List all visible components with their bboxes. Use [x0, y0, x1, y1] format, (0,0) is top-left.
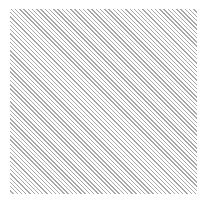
diagonal-hatch-swatch	[10, 9, 197, 194]
